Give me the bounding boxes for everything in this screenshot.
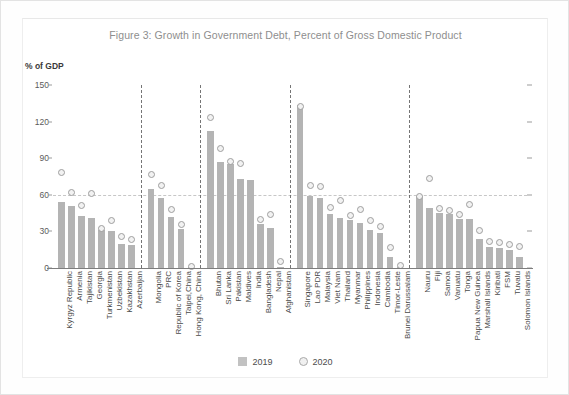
x-tick-label: Pakistan xyxy=(234,271,243,302)
bar-2019 xyxy=(68,206,74,268)
bar-2019 xyxy=(148,189,154,268)
marker-2020 xyxy=(148,171,155,178)
bar-2019 xyxy=(466,219,472,268)
marker-2020 xyxy=(357,206,364,213)
bar-2019 xyxy=(217,162,223,268)
bar-2019 xyxy=(476,239,482,268)
marker-2020 xyxy=(466,201,473,208)
bar-2019 xyxy=(237,179,243,268)
marker-2020 xyxy=(68,189,75,196)
bar-2019 xyxy=(168,217,174,268)
x-tick-label: Indonesia xyxy=(373,271,382,306)
marker-2020 xyxy=(118,233,125,240)
marker-2020 xyxy=(108,217,115,224)
x-tick-label: Marshall Islands xyxy=(483,271,492,329)
plot-area: 0306090120150 xyxy=(53,85,527,268)
y-tick-mark-left-60 xyxy=(48,194,52,195)
bar-2019 xyxy=(387,257,393,268)
x-tick-label: Timor-Leste xyxy=(393,271,402,313)
group-separator-2 xyxy=(200,85,201,268)
x-tick-label: Afghanistan xyxy=(284,271,293,313)
x-tick-label: Viet Nam xyxy=(333,271,342,304)
bar-2019 xyxy=(118,244,124,268)
legend-label: 2020 xyxy=(313,357,333,367)
y-tick-mark-left-90 xyxy=(48,158,52,159)
bar-2019 xyxy=(367,230,373,268)
marker-2020 xyxy=(416,193,423,200)
y-tick-label-150: 150 xyxy=(35,80,49,90)
y-tick-mark-left-150 xyxy=(48,85,52,86)
figure-page: Figure 3: Growth in Government Debt, Per… xyxy=(0,0,569,395)
x-tick-label: Cambodia xyxy=(383,271,392,307)
bar-2019 xyxy=(267,228,273,268)
bar-2019 xyxy=(446,214,452,268)
marker-2020 xyxy=(158,182,165,189)
marker-2020 xyxy=(337,197,344,204)
marker-2020 xyxy=(188,263,195,270)
marker-2020 xyxy=(327,204,334,211)
y-tick-mark-right-150 xyxy=(527,85,532,86)
bar-2019 xyxy=(247,180,253,268)
x-tick-label: Taipei,China xyxy=(184,271,193,315)
y-tick-mark-left-30 xyxy=(48,231,52,232)
marker-2020 xyxy=(88,190,95,197)
x-tick-label: Kyrgyz Republic xyxy=(65,271,74,329)
marker-2020 xyxy=(297,103,304,110)
legend-item-2020: 2020 xyxy=(299,357,333,367)
bar-2019 xyxy=(98,230,104,268)
x-tick-label: Nauru xyxy=(423,271,432,293)
x-tick-label: Kazakhstan xyxy=(125,271,134,313)
bar-2019 xyxy=(128,245,134,268)
marker-2020 xyxy=(307,182,314,189)
marker-2020 xyxy=(476,227,483,234)
marker-2020 xyxy=(58,169,65,176)
bar-2019 xyxy=(297,105,303,268)
marker-2020 xyxy=(367,217,374,224)
x-tick-label: Samoa xyxy=(443,271,452,296)
legend-label: 2019 xyxy=(252,357,272,367)
marker-2020 xyxy=(178,221,185,228)
bar-2019 xyxy=(337,218,343,268)
marker-2020 xyxy=(506,241,513,248)
x-tick-label: PRC xyxy=(164,271,173,288)
marker-2020 xyxy=(377,223,384,230)
x-tick-label: India xyxy=(254,271,263,288)
x-tick-label: Bhutan xyxy=(214,271,223,296)
bar-2019 xyxy=(456,219,462,268)
bar-2019 xyxy=(357,223,363,268)
x-tick-label: Tajikistan xyxy=(85,271,94,304)
bar-2019 xyxy=(516,257,522,268)
bar-2019 xyxy=(207,131,213,268)
bar-2019 xyxy=(58,202,64,268)
marker-2020 xyxy=(347,212,354,219)
bar-2019 xyxy=(506,250,512,268)
x-tick-label: Hong Kong, China xyxy=(194,271,203,336)
bar-2019 xyxy=(227,164,233,268)
bar-2019 xyxy=(88,218,94,268)
x-tick-label: Tonga xyxy=(463,271,472,293)
y-tick-mark-right-60 xyxy=(527,194,532,195)
marker-2020 xyxy=(237,160,244,167)
x-tick-label: Bangladesh xyxy=(264,271,273,313)
x-tick-label: Nepal xyxy=(274,271,283,292)
x-axis-labels: Kyrgyz RepublicArmeniaTajikistanGeorgiaT… xyxy=(53,271,527,351)
marker-2020 xyxy=(78,202,85,209)
bar-2019 xyxy=(317,198,323,268)
bar-2019 xyxy=(436,213,442,268)
x-tick-label: Singapore xyxy=(303,271,312,307)
group-separator-3 xyxy=(290,85,291,268)
marker-2020 xyxy=(128,236,135,243)
marker-2020 xyxy=(257,216,264,223)
marker-2020 xyxy=(426,175,433,182)
figure-title: Figure 3: Growth in Government Debt, Per… xyxy=(1,29,569,41)
x-tick-label: Lao PDR xyxy=(313,271,322,303)
x-tick-label: Fiji xyxy=(433,271,442,281)
bar-2019 xyxy=(158,198,164,268)
marker-2020 xyxy=(387,244,394,251)
x-tick-label: Philippines xyxy=(363,271,372,310)
bar-2019 xyxy=(496,248,502,268)
y-axis-unit-label: % of GDP xyxy=(25,61,64,71)
y-tick-mark-left-120 xyxy=(48,121,52,122)
marker-2020 xyxy=(207,114,214,121)
marker-2020 xyxy=(446,207,453,214)
